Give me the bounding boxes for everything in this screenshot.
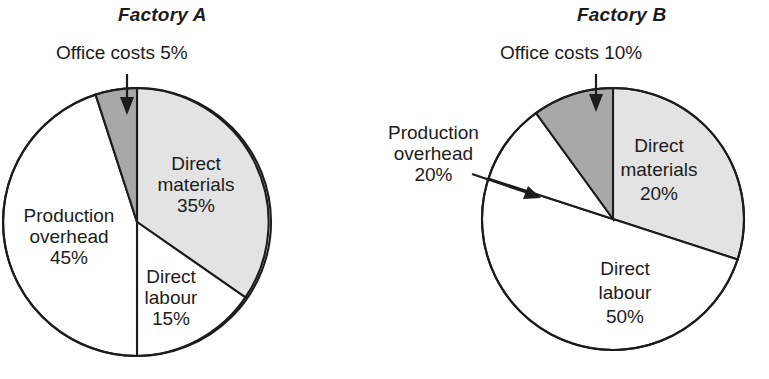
label-line-3: 50% — [606, 306, 644, 327]
label-line-2: labour — [145, 287, 198, 308]
label-line-1: Direct — [600, 258, 650, 279]
label-line-1: Direct — [171, 153, 221, 174]
label-line-3: 20% — [640, 183, 678, 204]
pie-chart-figure: Factory A Factory B Office costs 5% Offi… — [0, 0, 769, 379]
label-line-1: Production — [24, 205, 115, 226]
label-line-1: Direct — [146, 266, 196, 287]
label-line-2: overhead — [29, 226, 108, 247]
pie-charts-svg: Direct materials 35% Direct labour 15% P… — [0, 0, 769, 379]
label-line-2: materials — [157, 174, 234, 195]
label-line-3: 15% — [152, 308, 190, 329]
label-line-1: Direct — [634, 135, 684, 156]
label-line-2: labour — [599, 282, 652, 303]
label-line-3: 35% — [177, 195, 215, 216]
label-line-2: materials — [620, 159, 697, 180]
label-line-3: 45% — [50, 247, 88, 268]
